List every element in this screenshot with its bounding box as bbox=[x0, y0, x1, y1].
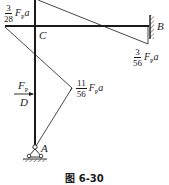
moment-line-da bbox=[36, 88, 72, 146]
moment-label-d: 1156 FPa bbox=[76, 79, 103, 99]
node-label-b: B bbox=[157, 21, 164, 32]
moment-line-cb bbox=[38, 0, 148, 44]
moment-label-top-left: 328 FPa bbox=[4, 4, 29, 24]
moment-label-b: 356 FPa bbox=[133, 48, 158, 68]
node-label-c: C bbox=[39, 30, 46, 41]
figure-caption: 图 6-30 bbox=[0, 170, 169, 185]
node-label-d: D bbox=[20, 97, 28, 108]
moment-tick-d bbox=[70, 88, 72, 91]
load-label: FP bbox=[18, 80, 28, 93]
node-label-a: A bbox=[41, 143, 48, 154]
